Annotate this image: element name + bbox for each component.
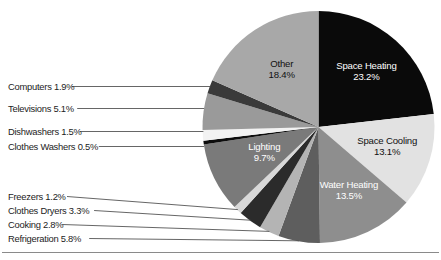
leader-line-clothes-dryers xyxy=(94,211,250,221)
wedge-label-name: Space Heating xyxy=(336,60,396,71)
leader-line-cooking xyxy=(62,225,269,232)
callout-labels: Computers 1.9%Televisions 5.1%Dishwasher… xyxy=(8,81,98,244)
callout-label-dishwashers: Dishwashers 1.5% xyxy=(8,126,82,137)
wedge-label-value: 13.5% xyxy=(336,190,363,201)
callout-label-clothes-washers: Clothes Washers 0.5% xyxy=(8,141,98,152)
wedge-label-name: Water Heating xyxy=(320,179,378,190)
callout-label-clothes-dryers: Clothes Dryers 3.3% xyxy=(8,205,89,216)
wedge-label-name: Lighting xyxy=(248,141,280,152)
wedge-label-name: Space Cooling xyxy=(357,135,417,146)
leader-line-refrigeration xyxy=(89,239,299,241)
callout-label-refrigeration: Refrigeration 5.8% xyxy=(8,233,81,244)
wedge-label-name: Other xyxy=(270,58,294,69)
callout-label-computers: Computers 1.9% xyxy=(8,81,74,92)
pie-chart-figure: Space Heating 23.2%Space Cooling 13.1%Wa… xyxy=(0,0,441,260)
leader-line-freezers xyxy=(67,197,238,210)
wedge-label-value: 18.4% xyxy=(269,69,296,80)
callout-label-freezers: Freezers 1.2% xyxy=(8,191,66,202)
wedge-label-other: Other18.4% xyxy=(269,58,296,80)
pie-slices: Space Heating 23.2%Space Cooling 13.1%Wa… xyxy=(203,11,435,243)
wedge-label-value: 13.1% xyxy=(374,146,401,157)
callout-label-televisions: Televisions 5.1% xyxy=(8,103,74,114)
wedge-label-value: 23.2% xyxy=(353,71,380,82)
callout-label-cooking: Cooking 2.8% xyxy=(8,219,63,230)
pie-chart-svg: Space Heating 23.2%Space Cooling 13.1%Wa… xyxy=(0,0,441,260)
wedge-label-value: 9.7% xyxy=(254,152,276,163)
